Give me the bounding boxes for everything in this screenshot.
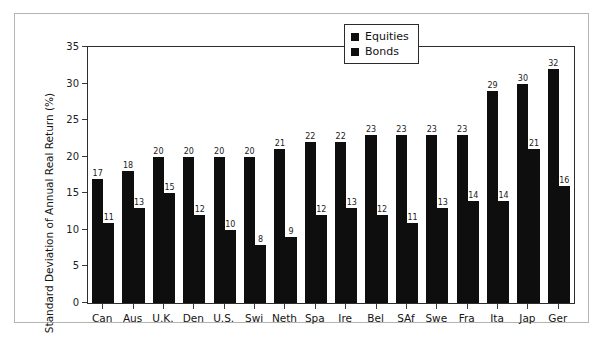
x-tick-mark bbox=[163, 304, 164, 309]
bar-group: 1813 bbox=[122, 47, 144, 303]
bar-value-label: 13 bbox=[337, 198, 367, 207]
bar-bonds bbox=[164, 193, 175, 303]
bar-group: 2314 bbox=[457, 47, 479, 303]
bar-value-label: 11 bbox=[94, 213, 124, 222]
bar-bonds bbox=[285, 237, 296, 303]
bar-value-label: 18 bbox=[113, 161, 143, 170]
figure-frame: Standard Deviation of Annual Real Return… bbox=[14, 13, 589, 323]
bar-value-label: 20 bbox=[235, 147, 265, 156]
bar-value-label: 20 bbox=[174, 147, 204, 156]
bar-value-label: 14 bbox=[489, 191, 519, 200]
x-tick-mark bbox=[558, 304, 559, 309]
legend-label-equities: Equities bbox=[365, 30, 409, 43]
x-tick-mark bbox=[527, 304, 528, 309]
bar-equities bbox=[457, 135, 468, 303]
x-axis: CanAusU.K.DenU.S.SwiNethSpaIreBelSAfSweF… bbox=[87, 304, 575, 338]
bar-group: 1711 bbox=[92, 47, 114, 303]
legend-label-bonds: Bonds bbox=[365, 45, 399, 58]
bar-equities bbox=[426, 135, 437, 303]
bar-equities bbox=[92, 179, 103, 303]
x-tick-mark bbox=[193, 304, 194, 309]
bar-value-label: 12 bbox=[306, 205, 336, 214]
bar-equities bbox=[214, 157, 225, 303]
bar-value-label: 30 bbox=[508, 74, 538, 83]
bar-equities bbox=[305, 142, 316, 303]
x-tick-mark bbox=[467, 304, 468, 309]
bar-group: 2312 bbox=[365, 47, 387, 303]
bar-bonds bbox=[468, 201, 479, 303]
bar-value-label: 32 bbox=[538, 59, 568, 68]
chart-figure: Standard Deviation of Annual Real Return… bbox=[0, 0, 607, 342]
y-tick-label: 35 bbox=[66, 41, 79, 52]
legend-swatch-icon bbox=[351, 33, 359, 41]
bar-value-label: 13 bbox=[124, 198, 154, 207]
y-axis-title: Standard Deviation of Annual Real Return… bbox=[43, 83, 55, 342]
bar-bonds bbox=[255, 245, 266, 304]
bar-value-label: 21 bbox=[265, 139, 295, 148]
bar-value-label: 8 bbox=[246, 235, 276, 244]
bar-group: 2010 bbox=[214, 47, 236, 303]
bar-group: 2311 bbox=[396, 47, 418, 303]
x-tick-label-ger: Ger bbox=[538, 312, 578, 324]
bar-equities bbox=[244, 157, 255, 303]
x-tick-mark bbox=[436, 304, 437, 309]
bar-equities bbox=[335, 142, 346, 303]
y-tick-label: 0 bbox=[73, 297, 79, 308]
bar-bonds bbox=[103, 223, 114, 303]
y-tick-label: 30 bbox=[66, 77, 79, 88]
bar-value-label: 23 bbox=[417, 125, 447, 134]
bar-group: 3021 bbox=[517, 47, 539, 303]
bar-group: 2914 bbox=[487, 47, 509, 303]
bar-value-label: 9 bbox=[276, 227, 306, 236]
bar-value-label: 15 bbox=[154, 183, 184, 192]
bar-group: 208 bbox=[244, 47, 266, 303]
bar-group: 2213 bbox=[335, 47, 357, 303]
bar-equities bbox=[365, 135, 376, 303]
x-tick-mark bbox=[133, 304, 134, 309]
bar-bonds bbox=[194, 215, 205, 303]
bar-group: 3216 bbox=[548, 47, 570, 303]
legend-swatch-icon bbox=[351, 48, 359, 56]
bar-group: 2015 bbox=[153, 47, 175, 303]
bar-equities bbox=[517, 84, 528, 303]
y-tick-label: 25 bbox=[66, 114, 79, 125]
bar-bonds bbox=[407, 223, 418, 303]
chart-legend: Equities Bonds bbox=[344, 24, 419, 64]
bar-value-label: 10 bbox=[215, 220, 245, 229]
bar-equities bbox=[183, 157, 194, 303]
bar-value-label: 17 bbox=[83, 169, 113, 178]
bar-value-label: 22 bbox=[295, 132, 325, 141]
x-tick-mark bbox=[102, 304, 103, 309]
bar-bonds bbox=[316, 215, 327, 303]
bar-bonds bbox=[559, 186, 570, 303]
bar-value-label: 14 bbox=[458, 191, 488, 200]
y-tick-label: 10 bbox=[66, 223, 79, 234]
bar-value-label: 23 bbox=[447, 125, 477, 134]
bar-value-label: 23 bbox=[356, 125, 386, 134]
bar-equities bbox=[122, 171, 133, 303]
bar-group: 2012 bbox=[183, 47, 205, 303]
bar-group: 2313 bbox=[426, 47, 448, 303]
x-tick-mark bbox=[284, 304, 285, 309]
bar-value-label: 23 bbox=[386, 125, 416, 134]
x-tick-mark bbox=[497, 304, 498, 309]
bar-group: 219 bbox=[274, 47, 296, 303]
bar-value-label: 13 bbox=[428, 198, 458, 207]
bar-bonds bbox=[528, 149, 539, 303]
bar-value-label: 16 bbox=[549, 176, 579, 185]
bar-bonds bbox=[377, 215, 388, 303]
bar-bonds bbox=[437, 208, 448, 303]
bar-value-label: 12 bbox=[367, 205, 397, 214]
y-tick-label: 20 bbox=[66, 150, 79, 161]
x-tick-mark bbox=[345, 304, 346, 309]
bar-value-label: 20 bbox=[204, 147, 234, 156]
y-tick-label: 15 bbox=[66, 187, 79, 198]
x-tick-mark bbox=[315, 304, 316, 309]
bar-group: 2212 bbox=[305, 47, 327, 303]
bars-layer: 1711181320152012201020821922122213231223… bbox=[88, 47, 574, 303]
y-axis: Standard Deviation of Annual Real Return… bbox=[15, 46, 87, 304]
x-tick-mark bbox=[406, 304, 407, 309]
legend-item-bonds: Bonds bbox=[351, 44, 409, 59]
bar-bonds bbox=[134, 208, 145, 303]
bar-bonds bbox=[346, 208, 357, 303]
